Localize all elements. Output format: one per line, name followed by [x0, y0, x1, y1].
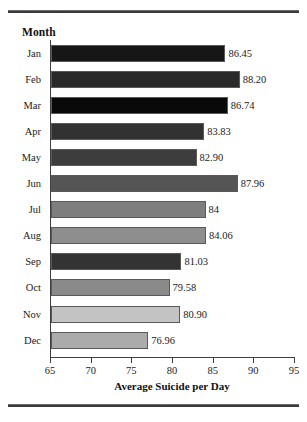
x-tick-mark	[50, 357, 51, 363]
bar-value-label: 83.83	[203, 123, 231, 140]
x-tick-mark	[213, 357, 214, 363]
x-tick-label: 65	[45, 365, 56, 376]
x-tick-mark	[294, 357, 295, 363]
bar	[51, 45, 225, 62]
bar	[51, 227, 206, 244]
bar	[51, 149, 197, 166]
y-axis-category-label: Nov	[0, 306, 46, 323]
bar	[51, 279, 170, 296]
y-axis-category-label: May	[0, 149, 46, 166]
y-axis-category-label: Jul	[0, 201, 46, 218]
bar-value-label: 82.90	[196, 149, 224, 166]
y-axis-category-label: Apr	[0, 123, 46, 140]
bar	[51, 97, 228, 114]
category-label-text: Feb	[25, 74, 41, 85]
bar-chart-plot-area: 65707580859095 Jan86.45Feb88.20Mar86.74A…	[0, 0, 307, 422]
x-tick-label: 75	[126, 365, 137, 376]
bar-value-label: 87.96	[237, 175, 265, 192]
category-label-text: Oct	[26, 282, 41, 293]
bar	[51, 123, 204, 140]
category-label-text: Aug	[23, 230, 41, 241]
bar-value-label: 88.20	[239, 71, 267, 88]
category-label-text: Jun	[26, 178, 41, 189]
bar-value-label: 79.58	[169, 279, 197, 296]
x-tick-mark	[131, 357, 132, 363]
y-axis-category-label: Jan	[0, 45, 46, 62]
bar-value-label: 86.74	[227, 97, 255, 114]
x-tick-mark	[91, 357, 92, 363]
category-label-text: Nov	[23, 309, 41, 320]
x-tick-mark	[253, 357, 254, 363]
bar-value-label: 76.96	[147, 332, 175, 349]
x-tick-label: 90	[248, 365, 259, 376]
x-tick-label: 80	[167, 365, 178, 376]
category-label-text: Jan	[27, 48, 41, 59]
y-axis-category-label: Dec	[0, 332, 46, 349]
bar-value-label: 84.06	[205, 227, 233, 244]
bar	[51, 175, 238, 192]
figure-container: Month 65707580859095 Jan86.45Feb88.20Mar…	[0, 0, 307, 422]
y-axis-category-label: Jun	[0, 175, 46, 192]
bar	[51, 332, 148, 349]
category-label-text: Dec	[24, 335, 41, 346]
bar-value-label: 80.90	[179, 306, 207, 323]
bar-value-label: 84	[205, 201, 220, 218]
y-axis-category-label: Feb	[0, 71, 46, 88]
x-tick-mark	[172, 357, 173, 363]
y-axis-category-label: Oct	[0, 279, 46, 296]
x-tick-label: 70	[85, 365, 96, 376]
bar	[51, 201, 206, 218]
bar	[51, 253, 181, 270]
category-label-text: Apr	[25, 126, 41, 137]
bar-value-label: 86.45	[224, 45, 252, 62]
category-label-text: Sep	[25, 256, 41, 267]
bar	[51, 71, 240, 88]
x-tick-label: 95	[289, 365, 300, 376]
y-axis-category-label: Mar	[0, 97, 46, 114]
y-axis-category-label: Aug	[0, 227, 46, 244]
category-label-text: Jul	[29, 204, 41, 215]
bar-value-label: 81.03	[180, 253, 208, 270]
x-axis-title: Average Suicide per Day	[50, 380, 294, 392]
x-tick-label: 85	[207, 365, 218, 376]
category-label-text: Mar	[24, 100, 42, 111]
y-axis-category-label: Sep	[0, 253, 46, 270]
bar	[51, 306, 180, 323]
category-label-text: May	[22, 152, 41, 163]
